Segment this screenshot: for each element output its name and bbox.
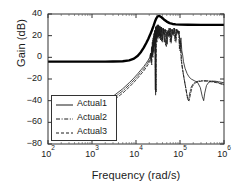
legend-item-actual2: Actual2 xyxy=(77,112,107,122)
data-series-layer xyxy=(48,16,224,106)
x-tick-label: 102 xyxy=(33,147,63,159)
x-tick-label: 106 xyxy=(209,147,237,159)
y-tick-label: −60 xyxy=(16,116,42,126)
x-tick-label: 104 xyxy=(121,147,151,159)
x-tick-label: 103 xyxy=(77,147,107,159)
legend-item-actual1: Actual1 xyxy=(77,98,107,108)
y-axis-label: Gain (dB) xyxy=(11,0,27,88)
y-axis-label-text: Gain (dB) xyxy=(15,19,27,67)
x-axis-label-text: Frequency (rad/s) xyxy=(92,169,181,181)
series-line-nominal xyxy=(48,16,224,62)
bode-magnitude-figure: 40200−20−40−60−80 102103104105106 Gain (… xyxy=(0,0,237,186)
x-tick-label: 105 xyxy=(165,147,195,159)
legend-item-actual3: Actual3 xyxy=(77,126,107,136)
x-axis-label: Frequency (rad/s) xyxy=(48,165,224,183)
y-tick-label: −40 xyxy=(16,95,42,105)
